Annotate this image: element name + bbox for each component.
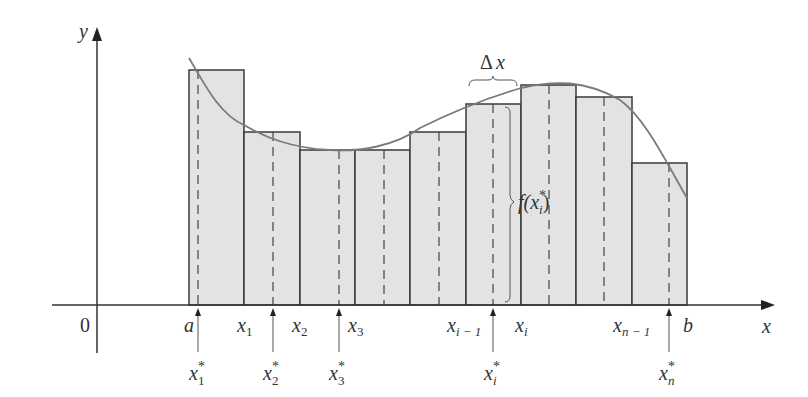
label-a: a xyxy=(184,314,194,336)
y-axis-arrow-icon xyxy=(92,27,102,41)
label-x1-star: x*1 xyxy=(188,359,205,388)
origin-label: 0 xyxy=(80,314,90,336)
label-x3: x3 xyxy=(347,314,363,339)
riemann-rectangle xyxy=(410,132,466,305)
riemann-rectangle xyxy=(355,150,410,305)
riemann-rectangle xyxy=(300,150,355,305)
label-x-i-minus-1: xi − 1 xyxy=(446,314,481,339)
y-axis-label: y xyxy=(77,20,88,43)
riemann-rectangle xyxy=(244,132,300,305)
label-x3-star: x*3 xyxy=(328,359,345,388)
riemann-rectangle xyxy=(189,70,244,305)
x-axis-arrow-icon xyxy=(761,300,775,310)
label-x2-star: x*2 xyxy=(262,359,279,388)
riemann-rectangles xyxy=(189,70,687,305)
label-x1: x1 xyxy=(236,314,252,339)
label-x-i: xi xyxy=(514,314,528,339)
f-xi-star-label: f(x*i) xyxy=(518,188,549,217)
delta-x-brace xyxy=(469,76,517,86)
delta-x-label: Δx xyxy=(480,51,505,73)
label-xi-star: x*i xyxy=(483,359,500,388)
label-x2: x2 xyxy=(291,314,307,339)
label-xn-star: x*n xyxy=(658,359,675,388)
label-b: b xyxy=(683,314,693,336)
sample-arrows xyxy=(198,314,669,352)
x-axis-label: x xyxy=(761,315,771,337)
riemann-sum-figure: y x 0 a x1 x2 x3 xi − 1 xi xn − 1 b x*1 … xyxy=(0,0,808,397)
label-x-n-minus-1: xn − 1 xyxy=(612,314,650,339)
sample-arrowhead-icons xyxy=(195,308,672,316)
